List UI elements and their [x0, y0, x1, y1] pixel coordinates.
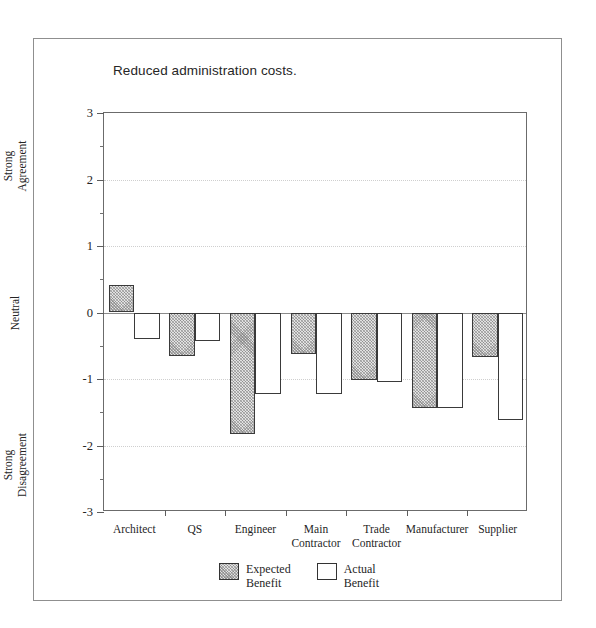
bar-actual-supplier	[498, 313, 524, 421]
y-axis-caption-2: Strong Disagreement	[2, 405, 29, 525]
x-tick-1	[165, 510, 166, 516]
bar-expected-architect	[109, 285, 135, 313]
y-tick-major--1	[97, 379, 104, 380]
x-tick-6	[467, 510, 468, 516]
y-axis-caption-1: Neutral	[9, 253, 23, 373]
y-tick-label-0: 0	[87, 305, 93, 320]
chart-title: Reduced administration costs.	[113, 63, 297, 78]
bar-actual-qs	[195, 313, 221, 342]
bar-actual-manufacturer	[437, 313, 463, 408]
bar-actual-trade-contractor	[377, 313, 403, 383]
y-tick-label-2: 2	[87, 172, 93, 187]
plot-inner: 3210-1-2-3Strong AgreementNeutralStrong …	[104, 113, 526, 510]
legend-label-actual: Actual Benefit	[344, 562, 379, 591]
plot-area: 3210-1-2-3Strong AgreementNeutralStrong …	[103, 112, 527, 511]
gridline-2	[104, 180, 526, 181]
bar-expected-qs	[169, 313, 195, 356]
gridline--1	[104, 379, 526, 380]
bar-actual-engineer	[255, 313, 281, 394]
chart-legend: Expected Benefit Actual Benefit	[219, 562, 379, 591]
y-axis-caption-0: Strong Agreement	[2, 106, 29, 226]
y-tick-minor-2.5	[100, 146, 104, 147]
bar-expected-trade-contractor	[351, 313, 377, 381]
legend-entry-expected: Expected Benefit	[219, 562, 291, 591]
y-tick-minor--2.5	[100, 479, 104, 480]
bar-expected-main-contractor	[291, 313, 317, 355]
legend-entry-actual: Actual Benefit	[317, 562, 379, 591]
y-tick-minor-0.5	[100, 279, 104, 280]
y-tick-minor-1.5	[100, 213, 104, 214]
x-tick-3	[286, 510, 287, 516]
y-tick-label--2: -2	[83, 438, 93, 453]
y-tick-major-2	[97, 180, 104, 181]
x-tick-2	[225, 510, 226, 516]
bar-expected-manufacturer	[412, 313, 438, 408]
y-tick-minor--1.5	[100, 412, 104, 413]
figure-page: Reduced administration costs. 3210-1-2-3…	[0, 0, 596, 628]
bar-expected-engineer	[230, 313, 256, 434]
y-tick-minor--0.5	[100, 346, 104, 347]
y-tick-major--3	[97, 512, 104, 513]
legend-swatch-expected-icon	[219, 563, 239, 580]
x-tick-4	[346, 510, 347, 516]
y-tick-major-0	[97, 313, 104, 314]
x-axis-label-supplier: Supplier	[455, 523, 541, 537]
y-tick-major-1	[97, 246, 104, 247]
bar-actual-main-contractor	[316, 313, 342, 394]
y-tick-label-1: 1	[87, 239, 93, 254]
y-tick-label--1: -1	[83, 372, 93, 387]
legend-label-expected: Expected Benefit	[246, 562, 291, 591]
y-tick-major--2	[97, 446, 104, 447]
x-tick-5	[407, 510, 408, 516]
y-tick-label-3: 3	[87, 106, 93, 121]
y-tick-major-3	[97, 113, 104, 114]
legend-swatch-actual-icon	[317, 563, 337, 580]
gridline--2	[104, 446, 526, 447]
y-tick-label--3: -3	[83, 505, 93, 520]
gridline-1	[104, 246, 526, 247]
bar-actual-architect	[134, 313, 160, 340]
bar-expected-supplier	[472, 313, 498, 358]
